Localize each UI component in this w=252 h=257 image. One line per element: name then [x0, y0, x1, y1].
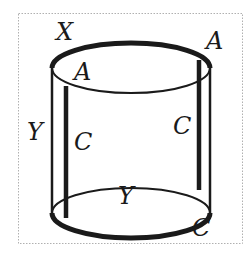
label-side-inner-left: C	[74, 128, 92, 156]
label-top-outer-left: X	[54, 18, 74, 46]
cylinder-diagram: X A A Y C C Y C	[0, 0, 252, 257]
label-side-inner-right: C	[173, 112, 191, 140]
label-bottom-right: C	[192, 214, 210, 242]
label-bottom-center: Y	[118, 182, 136, 210]
label-side-left: Y	[27, 118, 45, 146]
bottom-ellipse-front	[52, 213, 210, 238]
label-top-inner: A	[72, 58, 91, 86]
label-top-outer-right: A	[204, 27, 223, 55]
